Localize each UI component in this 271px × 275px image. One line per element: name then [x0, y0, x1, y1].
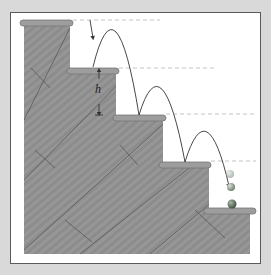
ball-resting — [228, 200, 237, 209]
step-height-label: h — [95, 83, 101, 95]
ball-mid — [227, 183, 235, 191]
tread-step-1 — [20, 20, 73, 26]
balls — [226, 170, 237, 209]
ball-faded — [226, 170, 234, 178]
tread-step-3 — [113, 115, 166, 121]
staircase-diagram — [0, 0, 271, 275]
tread-step-4 — [159, 162, 211, 168]
tread-step-5 — [204, 208, 256, 214]
tread-step-2 — [67, 68, 119, 74]
staircase — [24, 25, 250, 254]
